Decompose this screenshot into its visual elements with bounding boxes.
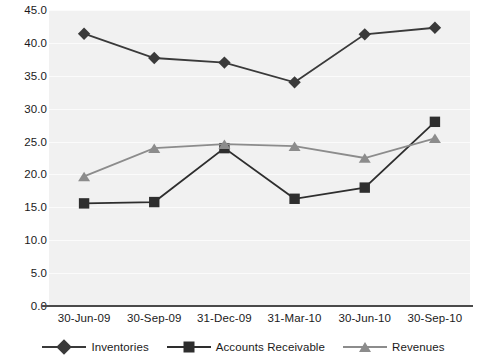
legend-item[interactable]: Accounts Receivable	[167, 339, 325, 355]
legend-marker	[359, 342, 371, 352]
data-point-marker	[430, 117, 440, 127]
data-point-marker	[78, 27, 90, 39]
data-point-marker	[148, 52, 160, 64]
square-marker-icon	[167, 339, 211, 355]
legend-label: Inventories	[91, 341, 148, 353]
series-line	[84, 122, 435, 204]
legend-label: Accounts Receivable	[216, 341, 325, 353]
data-point-marker	[149, 197, 159, 207]
data-point-marker	[288, 76, 300, 88]
data-point-marker	[429, 134, 441, 144]
chart-legend: InventoriesAccounts ReceivableRevenues	[0, 334, 487, 360]
data-point-marker	[289, 194, 299, 204]
diamond-marker-icon	[42, 339, 86, 355]
legend-label: Revenues	[392, 341, 445, 353]
series-inventories	[78, 22, 441, 89]
series-layer	[0, 0, 487, 363]
data-point-marker	[360, 182, 370, 192]
legend-marker	[183, 342, 194, 353]
series-accounts-receivable	[79, 117, 440, 209]
data-point-marker	[359, 28, 371, 40]
legend-item[interactable]: Inventories	[42, 339, 148, 355]
data-point-marker	[78, 172, 90, 182]
data-point-marker	[79, 198, 89, 208]
triangle-marker-icon	[343, 339, 387, 355]
legend-item[interactable]: Revenues	[343, 339, 445, 355]
legend-marker	[57, 339, 73, 355]
series-line	[84, 28, 435, 83]
data-point-marker	[218, 56, 230, 68]
line-chart: 0.05.010.015.020.025.030.035.040.045.0 3…	[0, 0, 487, 363]
data-point-marker	[429, 22, 441, 34]
